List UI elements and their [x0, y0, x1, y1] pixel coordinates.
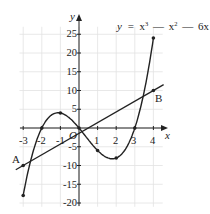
x-tick-label: -1 [56, 135, 65, 146]
y-tick-label: -20 [63, 197, 77, 208]
curve-point [77, 126, 81, 130]
grid [19, 27, 162, 207]
x-tick-label: -2 [37, 135, 46, 146]
y-tick-label: 15 [67, 66, 78, 77]
y-tick-label: 20 [67, 47, 78, 58]
point-b-label: B [155, 92, 162, 104]
x-tick-label: -3 [19, 135, 28, 146]
origin-label: O [69, 129, 77, 141]
y-axis-label: y [69, 10, 75, 22]
curve-point [133, 126, 137, 130]
y-tick-label: 10 [67, 85, 78, 96]
curve-point [21, 194, 25, 198]
y-axis-arrow-icon [76, 14, 82, 21]
y-tick-label: -10 [63, 160, 77, 171]
y-tick-label: -15 [63, 179, 77, 190]
x-axis-label: x [164, 129, 170, 141]
equation-label: y = x3 — x2 — 6x [116, 16, 210, 32]
curve-point [40, 126, 44, 130]
curve-point [114, 156, 118, 160]
graph: x y O -3 -2 -1 1 2 3 4 25 20 15 10 5 -5 … [0, 0, 210, 214]
y-tick-label: 5 [72, 103, 77, 114]
line-point [21, 164, 25, 168]
x-tick-label: 2 [113, 135, 118, 146]
curve-point [96, 149, 100, 153]
cubic-curve [23, 38, 153, 196]
line-ab [16, 85, 164, 170]
x-tick-label: 4 [150, 135, 156, 146]
x-tick-label: 3 [131, 135, 136, 146]
y-tick-label: -5 [68, 141, 77, 152]
curve-point [59, 111, 63, 115]
curve-point [152, 36, 156, 40]
y-tick-label: 25 [67, 28, 78, 39]
x-tick-labels: -3 -2 -1 1 2 3 4 [19, 135, 156, 146]
x-tick-label: 1 [94, 135, 99, 146]
point-a-label: A [12, 153, 20, 165]
